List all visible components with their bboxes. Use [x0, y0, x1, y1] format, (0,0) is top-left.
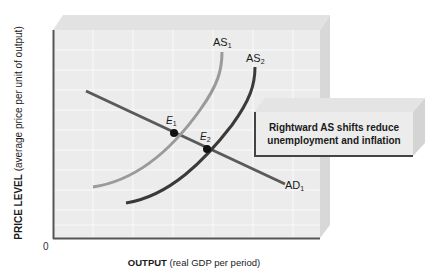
y-axis-title: PRICE LEVEL (average price per unit of o… [13, 26, 24, 239]
callout-line-1: Rightward AS shifts reduce [267, 121, 400, 134]
callout-text: Rightward AS shifts reduce unemployment … [255, 112, 413, 156]
origin-label: 0 [43, 241, 49, 252]
e1-label: E1 [166, 115, 177, 127]
e1-point [170, 129, 178, 137]
e2-label: E2 [200, 131, 211, 143]
x-axis-title: OUTPUT (real GDP per period) [128, 257, 260, 268]
as1-label: AS1 [213, 36, 232, 49]
callout-line-2: unemployment and inflation [267, 134, 400, 147]
as2-label: AS2 [246, 52, 265, 65]
ad1-label: AD1 [285, 179, 304, 192]
callout-top-bevel [254, 98, 425, 112]
e2-point [203, 145, 211, 153]
panel-top-bevel [53, 15, 330, 30]
